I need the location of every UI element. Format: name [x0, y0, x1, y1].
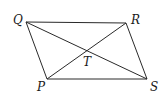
label-p: P — [36, 80, 46, 94]
label-r: R — [130, 13, 140, 27]
diagonal-PR — [47, 23, 126, 79]
vertex-labels: QRSPT — [13, 13, 158, 94]
label-q: Q — [13, 13, 23, 27]
label-t: T — [83, 55, 92, 69]
label-s: S — [150, 80, 158, 94]
side-QR — [26, 22, 126, 23]
parallelogram-diagram: QRSPT — [0, 0, 162, 101]
